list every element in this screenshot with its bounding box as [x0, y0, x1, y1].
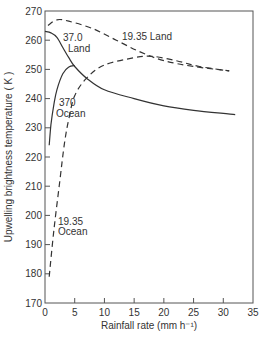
y-axis-label: Upwelling brightness temperature ( K ) [3, 72, 14, 243]
curve-19-35-ocean [49, 56, 229, 277]
y-tick-label: 180 [25, 268, 42, 279]
x-tick-label: 0 [42, 307, 48, 318]
y-tick-label: 230 [25, 122, 42, 133]
x-tick-label: 10 [99, 307, 111, 318]
brightness-temperature-chart: 1701801902002102202302402502602700510152… [0, 0, 264, 337]
label-37-ocean-2: Ocean [56, 108, 85, 119]
label-37-land: 37.0 [63, 32, 83, 43]
label-19-ocean-2: Ocean [58, 226, 87, 237]
y-tick-label: 210 [25, 181, 42, 192]
x-tick-label: 25 [188, 307, 200, 318]
y-tick-label: 240 [25, 93, 42, 104]
curves [45, 19, 235, 276]
plot-frame [45, 11, 253, 303]
x-tick-label: 30 [218, 307, 230, 318]
label-37-land-2: Land [68, 43, 90, 54]
x-tick-label: 5 [72, 307, 78, 318]
x-axis-label: Rainfall rate (mm h⁻¹) [101, 320, 197, 331]
x-tick-label: 20 [158, 307, 170, 318]
y-tick-label: 250 [25, 64, 42, 75]
y-tick-label: 270 [25, 6, 42, 17]
label-19-land: 19.35 Land [122, 31, 172, 42]
y-tick-label: 190 [25, 239, 42, 250]
label-37-ocean: 370 [59, 97, 76, 108]
y-tick-label: 220 [25, 152, 42, 163]
y-tick-label: 200 [25, 210, 42, 221]
x-tick-label: 35 [247, 307, 259, 318]
y-tick-label: 260 [25, 35, 42, 46]
x-tick-label: 15 [129, 307, 141, 318]
y-tick-label: 170 [25, 298, 42, 309]
